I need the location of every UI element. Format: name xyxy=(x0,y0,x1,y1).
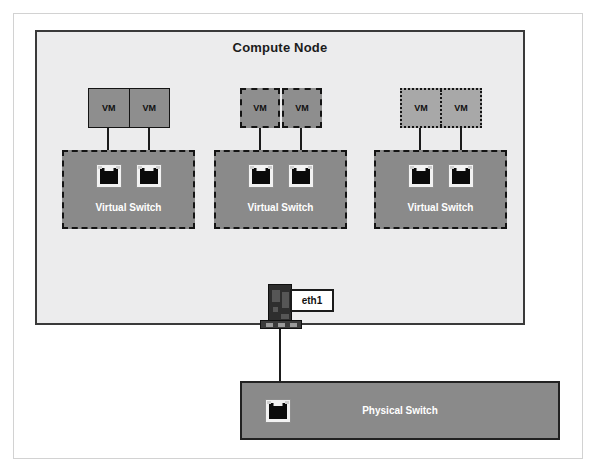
physical-switch-container[interactable]: Physical Switch xyxy=(240,381,560,440)
virtual-switch-ports xyxy=(376,164,505,188)
virtual-switch-3[interactable]: Virtual Switch xyxy=(374,150,507,229)
rj45-port-icon[interactable] xyxy=(136,164,162,188)
vm-box[interactable]: VM xyxy=(282,88,322,128)
vm-box[interactable]: VM xyxy=(89,89,129,127)
virtual-switch-label: Virtual Switch xyxy=(216,202,345,213)
virtual-switch-label: Virtual Switch xyxy=(376,202,505,213)
vm-box[interactable]: VM xyxy=(402,90,440,126)
vm-group-3[interactable]: VM VM xyxy=(400,88,482,128)
eth1-interface-label: eth1 xyxy=(290,289,334,312)
physical-switch-label: Physical Switch xyxy=(242,383,558,438)
virtual-switch-label: Virtual Switch xyxy=(64,202,193,213)
virtual-switch-1[interactable]: Virtual Switch xyxy=(62,150,195,229)
vm-box[interactable]: VM xyxy=(129,89,170,127)
vm-box[interactable]: VM xyxy=(240,88,280,128)
virtual-switch-2[interactable]: Virtual Switch xyxy=(214,150,347,229)
rj45-port-icon[interactable] xyxy=(96,164,122,188)
compute-node-title: Compute Node xyxy=(37,40,523,55)
virtual-switch-ports xyxy=(216,164,345,188)
virtual-switch-ports xyxy=(64,164,193,188)
network-card-bracket xyxy=(260,320,302,329)
diagram-canvas: Compute Node VM VM Virtual Switch VM VM xyxy=(0,0,597,473)
vm-group-1[interactable]: VM VM xyxy=(88,88,170,128)
rj45-port-icon[interactable] xyxy=(288,164,314,188)
rj45-port-icon[interactable] xyxy=(408,164,434,188)
rj45-port-icon[interactable] xyxy=(448,164,474,188)
vm-box[interactable]: VM xyxy=(440,90,480,126)
rj45-port-icon[interactable] xyxy=(248,164,274,188)
vm-group-2[interactable]: VM VM xyxy=(240,88,322,128)
